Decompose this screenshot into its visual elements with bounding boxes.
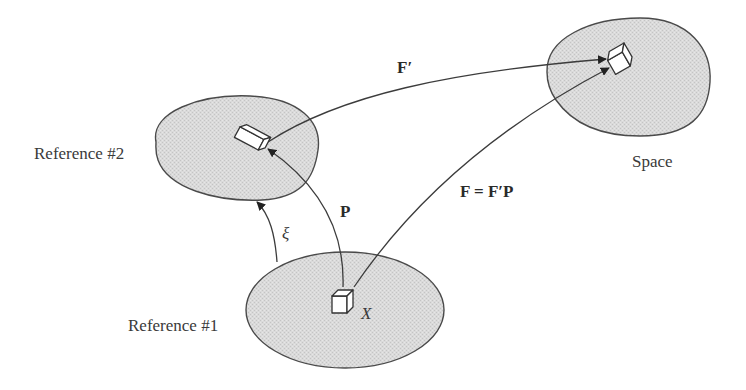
- label-F-equals-F-prime-P: F = F′P: [460, 182, 514, 201]
- label-xi: ξ: [282, 224, 290, 243]
- box-reference-1: [332, 290, 353, 313]
- configuration-diagram: Reference #2 Reference #1 Space X ξ P F′…: [0, 0, 746, 390]
- region-reference-2: [156, 96, 319, 200]
- label-P: P: [340, 202, 350, 221]
- region-space: [547, 18, 710, 136]
- label-point-X: X: [360, 304, 372, 323]
- label-F-prime: F′: [397, 58, 412, 77]
- arrow-xi: [257, 202, 277, 262]
- label-reference-1: Reference #1: [128, 316, 218, 335]
- label-space: Space: [632, 152, 673, 171]
- label-reference-2: Reference #2: [34, 144, 124, 163]
